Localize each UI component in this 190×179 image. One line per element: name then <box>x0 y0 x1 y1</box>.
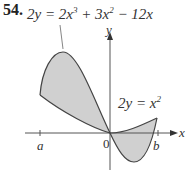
graph <box>0 0 190 179</box>
parabola-lhs: 2y = x <box>118 95 156 111</box>
parabola-exp: 2 <box>156 94 161 104</box>
cubic-leader-line <box>60 25 63 49</box>
shaded-region-left <box>40 52 110 133</box>
parabola-equation-label: 2y = x2 <box>118 94 161 112</box>
shaded-region-right <box>110 118 157 162</box>
tick-a-label: a <box>37 138 44 154</box>
origin-label: 0 <box>103 136 110 152</box>
x-axis-label: x <box>179 125 185 141</box>
x-axis-arrow <box>170 130 178 136</box>
tick-b-label: b <box>153 138 160 154</box>
y-axis-label: y <box>106 22 112 38</box>
